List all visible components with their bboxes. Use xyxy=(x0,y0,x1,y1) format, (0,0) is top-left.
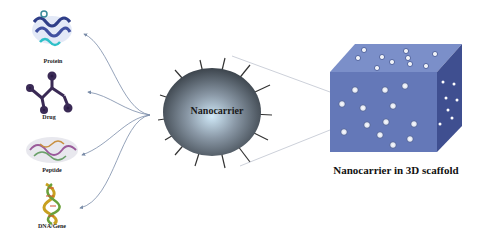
dna-gene-label: DNA/Gene xyxy=(27,223,77,229)
protein-ribbon-icon xyxy=(32,11,72,45)
scaffold-cube xyxy=(330,44,462,152)
peptide-label: Peptide xyxy=(27,167,77,173)
protein-label: Protein xyxy=(28,58,78,64)
peptide-structure-icon xyxy=(26,137,78,163)
nanocarrier-label: Nanocarrier xyxy=(182,105,252,116)
scaffold-label: Nanocarrier in 3D scaffold xyxy=(306,164,486,176)
connector-arrows xyxy=(80,34,150,208)
drug-label: Drug xyxy=(24,114,74,120)
drug-molecule-icon xyxy=(28,73,72,113)
diagram-canvas: Protein Drug Peptide DNA/Gene Nanocarrie… xyxy=(0,0,491,232)
dna-helix-icon xyxy=(44,184,60,224)
